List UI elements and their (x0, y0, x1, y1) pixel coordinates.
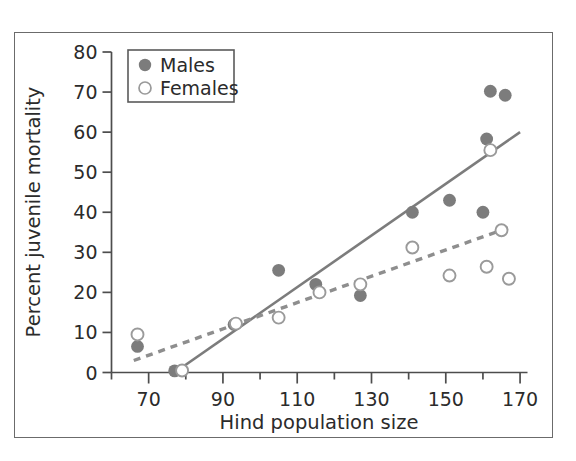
legend-label-females: Females (160, 77, 239, 99)
data-point-males (406, 206, 419, 219)
y-tick-label: 0 (85, 362, 97, 384)
data-point-males (272, 264, 285, 277)
data-point-males (499, 89, 512, 102)
x-tick-label: 110 (279, 388, 315, 410)
y-tick-label: 60 (73, 121, 97, 143)
x-tick-label: 70 (137, 388, 161, 410)
data-point-females (444, 270, 456, 282)
data-point-females (481, 261, 493, 273)
y-tick-label: 20 (73, 281, 97, 303)
legend-marker-males (139, 59, 151, 71)
y-tick-label: 30 (73, 241, 97, 263)
y-tick-label: 70 (73, 81, 97, 103)
data-point-females (176, 364, 188, 376)
x-axis-title: Hind population size (220, 411, 419, 434)
x-tick-label: 170 (502, 388, 538, 410)
data-point-females (230, 318, 242, 330)
trendlines (134, 132, 520, 372)
data-point-males (484, 85, 497, 98)
y-tick-label: 80 (73, 41, 97, 63)
y-tick-label: 10 (73, 321, 97, 343)
data-point-females (496, 224, 508, 236)
data-point-females (484, 144, 496, 156)
trendline-males (175, 132, 520, 372)
data-point-females (354, 278, 366, 290)
data-point-females (314, 286, 326, 298)
y-tick-label: 40 (73, 201, 97, 223)
data-point-males (443, 194, 456, 207)
data-point-females (406, 242, 418, 254)
legend-marker-females (139, 82, 151, 94)
x-axis-ticks: 7090110130150170 (112, 373, 539, 410)
y-axis-ticks: 01020304050607080 (73, 41, 111, 384)
data-point-males (131, 340, 144, 353)
data-point-females (273, 312, 285, 324)
x-tick-label: 150 (428, 388, 464, 410)
x-tick-label: 130 (353, 388, 389, 410)
legend-label-males: Males (160, 54, 215, 76)
legend: Males Females (128, 50, 239, 102)
data-point-males (477, 206, 490, 219)
data-points (131, 85, 515, 377)
data-point-females (132, 328, 144, 340)
data-point-females (503, 273, 515, 285)
y-tick-label: 50 (73, 161, 97, 183)
scatter-plot: 01020304050607080 7090110130150170 Hind … (0, 0, 576, 461)
figure-panel: 01020304050607080 7090110130150170 Hind … (0, 0, 576, 461)
y-axis-title: Percent juvenile mortality (22, 87, 45, 338)
x-tick-label: 90 (211, 388, 235, 410)
